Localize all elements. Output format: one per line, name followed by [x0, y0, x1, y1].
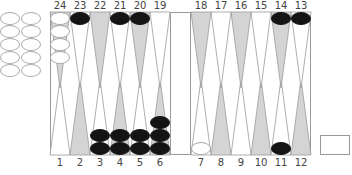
point-15[interactable] [251, 12, 271, 88]
point-label-20: 20 [130, 0, 150, 11]
black-checker[interactable] [271, 142, 291, 155]
point-19[interactable] [150, 12, 170, 88]
borne-off-white-checker [21, 25, 41, 38]
point-10[interactable] [251, 79, 271, 155]
borne-off-white-checker [21, 12, 41, 25]
point-label-22: 22 [90, 0, 110, 11]
point-label-14: 14 [271, 0, 291, 11]
black-checker[interactable] [70, 12, 90, 25]
point-label-24: 24 [50, 0, 70, 11]
point-8[interactable] [211, 79, 231, 155]
point-22[interactable] [90, 12, 110, 88]
point-label-4: 4 [110, 157, 130, 168]
point-label-21: 21 [110, 0, 130, 11]
point-label-8: 8 [211, 157, 231, 168]
borne-off-white-checker [21, 51, 41, 64]
black-checker[interactable] [150, 129, 170, 142]
point-label-1: 1 [50, 157, 70, 168]
borne-off-white-checker [21, 38, 41, 51]
borne-off-white-checker [0, 12, 20, 25]
black-checker[interactable] [110, 12, 130, 25]
point-label-19: 19 [150, 0, 170, 11]
black-checker[interactable] [271, 12, 291, 25]
white-checker[interactable] [50, 12, 70, 25]
point-label-23: 23 [70, 0, 90, 11]
point-label-16: 16 [231, 0, 251, 11]
point-label-5: 5 [130, 157, 150, 168]
black-checker[interactable] [90, 142, 110, 155]
point-label-6: 6 [150, 157, 170, 168]
borne-off-white-checker [0, 25, 20, 38]
point-17[interactable] [211, 12, 231, 88]
point-label-3: 3 [90, 157, 110, 168]
point-label-12: 12 [291, 157, 311, 168]
black-checker[interactable] [90, 129, 110, 142]
black-checker[interactable] [130, 129, 150, 142]
black-checker[interactable] [110, 142, 130, 155]
point-label-9: 9 [231, 157, 251, 168]
black-checker[interactable] [130, 12, 150, 25]
borne-off-white-checker [0, 51, 20, 64]
point-2[interactable] [70, 79, 90, 155]
point-9[interactable] [231, 79, 251, 155]
black-checker[interactable] [150, 142, 170, 155]
black-checker[interactable] [110, 129, 130, 142]
point-label-10: 10 [251, 157, 271, 168]
point-1[interactable] [50, 79, 70, 155]
borne-off-white-checker [0, 64, 20, 77]
doubling-cube-box[interactable] [320, 135, 350, 155]
point-12[interactable] [291, 79, 311, 155]
black-checker[interactable] [291, 12, 311, 25]
white-checker[interactable] [191, 142, 211, 155]
white-checker[interactable] [50, 51, 70, 64]
point-label-13: 13 [291, 0, 311, 11]
borne-off-white-checker [21, 64, 41, 77]
point-label-18: 18 [191, 0, 211, 11]
point-label-7: 7 [191, 157, 211, 168]
point-label-2: 2 [70, 157, 90, 168]
black-checker[interactable] [130, 142, 150, 155]
point-label-17: 17 [211, 0, 231, 11]
borne-off-white-checker [0, 38, 20, 51]
point-18[interactable] [191, 12, 211, 88]
point-16[interactable] [231, 12, 251, 88]
black-checker[interactable] [150, 116, 170, 129]
white-checker[interactable] [50, 25, 70, 38]
point-label-11: 11 [271, 157, 291, 168]
white-checker[interactable] [50, 38, 70, 51]
point-label-15: 15 [251, 0, 271, 11]
